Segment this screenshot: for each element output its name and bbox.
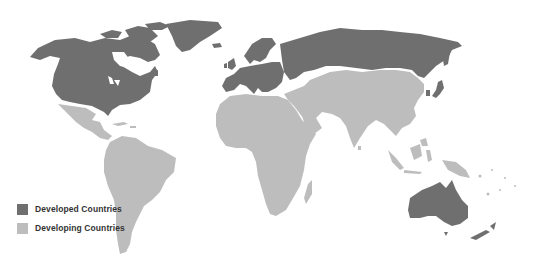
map-legend: Developed Countries Developing Countries xyxy=(17,203,125,241)
legend-item-developing: Developing Countries xyxy=(17,222,125,234)
north-america-developed xyxy=(30,20,222,116)
oceania-developed xyxy=(408,180,496,240)
legend-swatch-developing xyxy=(17,223,28,234)
legend-label-developed: Developed Countries xyxy=(35,204,122,214)
legend-label-developing: Developing Countries xyxy=(35,223,125,233)
legend-swatch-developed xyxy=(17,204,28,215)
legend-item-developed: Developed Countries xyxy=(17,203,125,215)
